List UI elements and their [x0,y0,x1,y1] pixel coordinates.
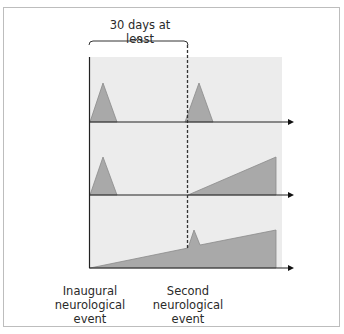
second-event-label: Second neurological event [148,284,228,326]
inaugural-event-label: Inaugural neurological event [50,284,130,326]
arrow-right-icon [288,265,294,271]
arrow-right-icon [288,119,294,125]
arrow-right-icon [288,192,294,198]
interval-label: 30 days at least [100,18,180,46]
